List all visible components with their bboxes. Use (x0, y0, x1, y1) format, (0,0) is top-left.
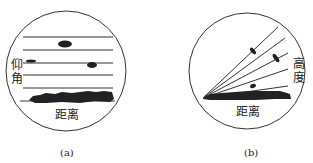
panel-b-vertical-label: 高度 (291, 57, 303, 85)
panel-b-caption: (b) (244, 147, 258, 158)
echo-blob (87, 62, 97, 68)
echo-blob (26, 60, 36, 63)
ground-clutter-b (203, 91, 291, 100)
echo-blob (58, 41, 72, 48)
panel-b-horizontal-label: 距离 (236, 106, 260, 118)
radial-scan-lines (203, 27, 288, 98)
ground-clutter (29, 91, 114, 103)
panel-a-horizontal-label: 距离 (55, 109, 79, 121)
echo-targets-b (203, 47, 291, 100)
panel-a-vertical-label: 仰角 (9, 58, 21, 86)
diagram-canvas (0, 0, 313, 163)
panel-a-caption: (a) (60, 147, 74, 158)
